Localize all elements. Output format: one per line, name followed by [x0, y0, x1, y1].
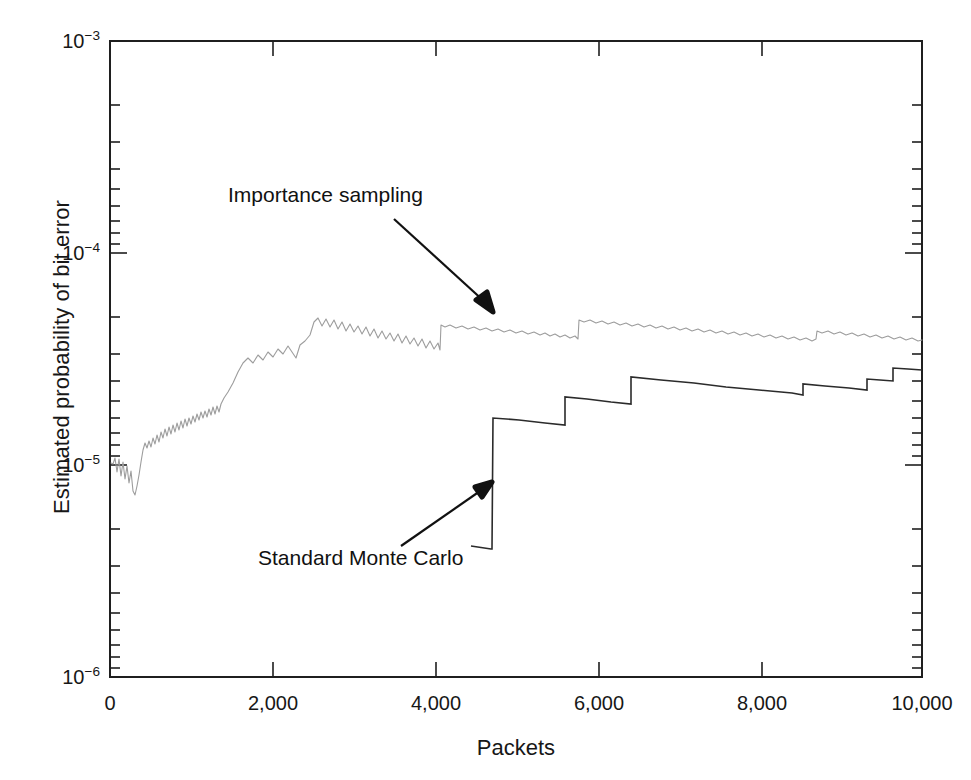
x-tick-6000: 6,000 [574, 692, 624, 715]
figure-caption-remnant [0, 764, 971, 778]
figure-bit-error-vs-packets: 10−3 10−4 10−5 10−6 0 2,000 4,000 6,000 … [0, 0, 971, 780]
y-axis-title: Estimated probability of bit error [49, 147, 75, 567]
x-tick-8000: 8,000 [737, 692, 787, 715]
x-axis-title: Packets [110, 735, 922, 761]
annotation-label-importance-sampling: Importance sampling [228, 183, 423, 207]
x-tick-10000: 10,000 [891, 692, 952, 715]
x-tick-4000: 4,000 [411, 692, 461, 715]
x-axis-tick-labels: 0 2,000 4,000 6,000 8,000 10,000 [0, 0, 971, 780]
annotation-label-standard-monte-carlo: Standard Monte Carlo [258, 546, 463, 570]
x-tick-0: 0 [104, 692, 115, 715]
x-tick-2000: 2,000 [248, 692, 298, 715]
